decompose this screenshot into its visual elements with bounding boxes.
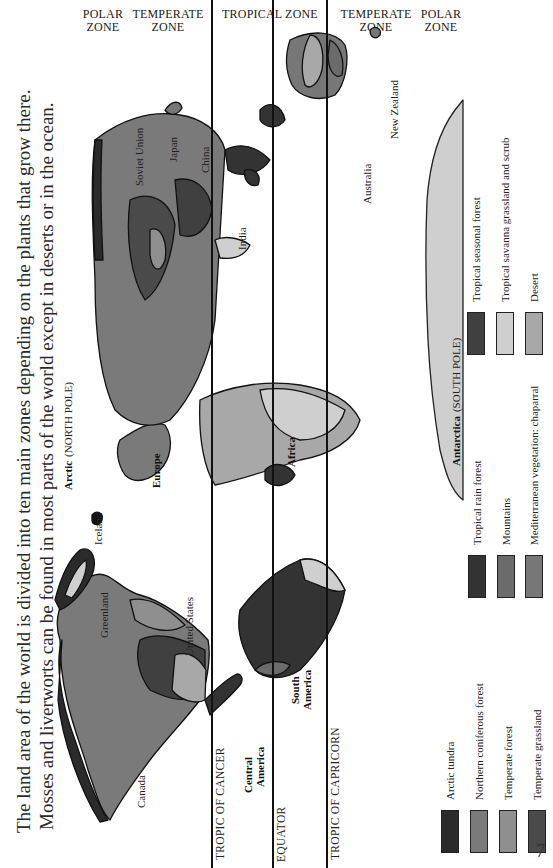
world-vegetation-map bbox=[0, 0, 553, 868]
label-africa: Africa bbox=[285, 437, 297, 467]
legend-label-temperate-forest: Temperate forest bbox=[502, 726, 514, 800]
legend-swatch-mountains bbox=[497, 555, 515, 598]
label-greenland: Greenland bbox=[98, 592, 110, 638]
legend-swatch-tropical-rain-forest bbox=[468, 555, 486, 598]
label-central-america: Central America bbox=[242, 747, 266, 793]
tropic-of-cancer-label: TROPIC OF CANCER bbox=[214, 747, 226, 860]
legend-label-tropical-rain-forest: Tropical rain forest bbox=[471, 460, 483, 545]
label-south-america: South America bbox=[289, 670, 313, 710]
page-number: 7 bbox=[536, 841, 545, 862]
label-india: India bbox=[236, 227, 248, 250]
label-antarctica: Antarctica (SOUTH POLE) bbox=[446, 338, 464, 466]
label-arctic: Arctic (NORTH POLE) bbox=[58, 382, 76, 490]
label-australia: Australia bbox=[361, 164, 373, 204]
label-iceland: Iceland bbox=[92, 513, 104, 545]
label-soviet-union: Soviet Union bbox=[133, 128, 145, 186]
label-united-states: United States bbox=[183, 597, 195, 656]
legend-swatch-arctic-tundra bbox=[441, 810, 459, 853]
label-china: China bbox=[199, 147, 211, 173]
legend-label-desert: Desert bbox=[528, 273, 540, 302]
legend-label-mediterranean-chaparral: Mediterranean vegetation: chaparral bbox=[528, 386, 540, 545]
equator-line bbox=[272, 0, 274, 868]
legend-label-temperate-grassland: Temperate grassland bbox=[531, 709, 543, 800]
legend-label-arctic-tundra: Arctic tundra bbox=[444, 742, 456, 800]
europe-shape bbox=[118, 424, 171, 481]
tropic-of-capricorn-line bbox=[326, 0, 328, 868]
new-zealand-shape bbox=[370, 28, 380, 38]
label-europe: Europe bbox=[150, 453, 162, 488]
legend-swatch-temperate-forest bbox=[499, 810, 517, 853]
legend-swatch-desert bbox=[525, 312, 543, 355]
tropic-of-capricorn-label: TROPIC OF CAPRICORN bbox=[329, 727, 341, 860]
intro-text: The land area of the world is divided in… bbox=[12, 90, 58, 868]
legend-label-mountains: Mountains bbox=[500, 498, 512, 545]
legend-label-tropical-seasonal-forest: Tropical seasonal forest bbox=[470, 197, 482, 302]
label-new-zealand: New Zealand bbox=[388, 80, 400, 139]
japan-shape bbox=[165, 102, 182, 114]
label-canada: Canada bbox=[135, 775, 147, 808]
legend-swatch-northern-coniferous-forest bbox=[470, 810, 488, 853]
legend-swatch-tropical-seasonal-forest bbox=[467, 312, 485, 355]
legend-label-northern-coniferous-forest: Northern coniferous forest bbox=[473, 683, 485, 800]
label-japan: Japan bbox=[167, 137, 179, 162]
legend-swatch-tropical-savanna bbox=[496, 312, 514, 355]
legend-label-tropical-savanna: Tropical savanna grassland and scrub bbox=[499, 137, 511, 302]
legend-swatch-mediterranean-chaparral bbox=[525, 555, 543, 598]
tropic-of-cancer-line bbox=[211, 0, 213, 868]
equator-label: EQUATOR bbox=[275, 806, 287, 862]
